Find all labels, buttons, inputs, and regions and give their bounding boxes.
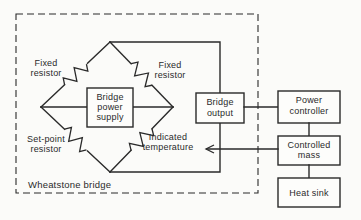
controlled-mass-label-line1: Controlled xyxy=(287,140,330,150)
label-set-point-resistor-line2: resistor xyxy=(30,144,61,154)
label-indicated-temperature-line1: Indicated xyxy=(149,132,187,142)
resistor-zigzag-top-right-icon xyxy=(127,60,156,90)
bridge-edge-top-right xyxy=(110,42,131,64)
bridge-edge-right-top xyxy=(152,85,173,107)
label-fixed-resistor-left-line1: Fixed xyxy=(34,58,57,68)
power-controller-label-line2: controller xyxy=(289,106,328,116)
bridge-power-supply-label-line2: power xyxy=(97,102,123,112)
controlled-mass-label-line2: mass xyxy=(298,150,321,160)
label-fixed-resistor-right-line2: resistor xyxy=(154,70,185,80)
figure-canvas: Bridge power supply Bridge output Power … xyxy=(0,0,361,220)
label-fixed-resistor-right-line1: Fixed xyxy=(158,60,181,70)
label-indicated-temperature-line2: temperature xyxy=(143,142,194,152)
wheatstone-bridge-caption: Wheatstone bridge xyxy=(28,179,111,190)
bridge-power-supply-label-line1: Bridge xyxy=(96,92,123,102)
bridge-edge-bottom-left xyxy=(88,151,111,172)
label-set-point-resistor-line1: Set-point xyxy=(27,134,65,144)
bridge-output-label-line1: Bridge xyxy=(206,97,233,107)
heat-sink-label: Heat sink xyxy=(289,188,329,198)
bridge-edge-bottom-right xyxy=(110,150,131,172)
label-fixed-resistor-left-line2: resistor xyxy=(30,68,61,78)
bridge-output-label-line2: output xyxy=(207,108,234,118)
power-controller-label-line1: Power xyxy=(296,95,323,105)
bridge-edge-left-bottom xyxy=(41,107,65,129)
bridge-edge-top-left xyxy=(88,42,111,63)
wheatstone-control-diagram: Bridge power supply Bridge output Power … xyxy=(0,0,361,220)
bridge-edge-left-top xyxy=(41,85,65,107)
bridge-edge-right-bottom xyxy=(152,107,173,129)
resistor-zigzag-set-point-icon xyxy=(60,125,90,154)
bridge-power-supply-label-line3: supply xyxy=(96,112,124,122)
